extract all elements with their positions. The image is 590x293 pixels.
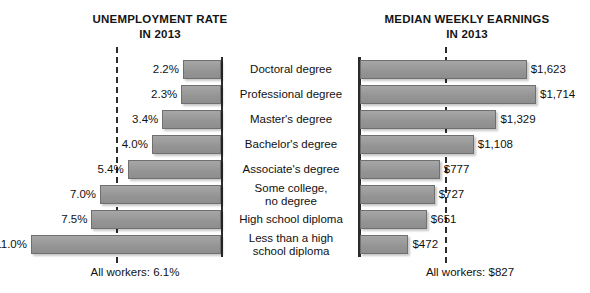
left-bar-value-less-than-high-school: 11.0% [0, 236, 27, 253]
right-bar-row: $651 [358, 207, 590, 232]
right-bar-row: $1,714 [358, 82, 590, 107]
category-label-masters: Master's degree [226, 113, 356, 126]
left-bar-row: 5.4% [8, 157, 223, 182]
left-bar-less-than-high-school [31, 235, 221, 254]
category-label-column: Doctoral degree Professional degree Mast… [226, 57, 356, 257]
left-bar-value-some-college: 7.0% [70, 186, 96, 203]
category-label-bachelors: Bachelor's degree [226, 138, 356, 151]
left-bar-some-college [100, 185, 221, 204]
right-bar-value-masters: $1,329 [500, 111, 535, 128]
right-bar-row: $472 [358, 232, 590, 257]
right-bar-high-school [360, 210, 427, 229]
left-bar-associates [128, 160, 221, 179]
category-label-line1: Associate's degree [243, 163, 340, 175]
right-bar-row: $1,623 [358, 57, 590, 82]
left-bar-professional [181, 85, 221, 104]
left-bar-value-high-school: 7.5% [61, 211, 87, 228]
category-label-high-school: High school diploma [226, 213, 356, 226]
right-bar-less-than-high-school [360, 235, 408, 254]
right-bar-bachelors [360, 135, 474, 154]
category-label-line2: school diploma [226, 245, 356, 258]
category-label-line1: Bachelor's degree [245, 138, 337, 150]
right-bar-value-doctoral: $1,623 [531, 61, 566, 78]
category-label-less-than-high-school: Less than a high school diploma [226, 232, 356, 257]
left-bar-value-masters: 3.4% [132, 111, 158, 128]
left-bar-row: 2.3% [8, 82, 223, 107]
right-bar-value-bachelors: $1,108 [478, 136, 513, 153]
left-bar-row: 7.5% [8, 207, 223, 232]
category-label-line1: High school diploma [239, 213, 343, 225]
category-label-line1: Doctoral degree [250, 63, 332, 75]
right-bar-value-associates: $777 [444, 161, 470, 178]
left-bar-row: 4.0% [8, 132, 223, 157]
left-bar-value-associates: 5.4% [98, 161, 124, 178]
right-bar-doctoral [360, 60, 527, 79]
left-bar-row: 11.0% [8, 232, 223, 257]
left-bar-doctoral [183, 60, 221, 79]
left-bar-value-doctoral: 2.2% [153, 61, 179, 78]
right-bar-associates [360, 160, 440, 179]
right-bar-row: $777 [358, 157, 590, 182]
right-bar-value-professional: $1,714 [540, 86, 575, 103]
dual-bar-chart-figure: UNEMPLOYMENT RATE IN 2013 MEDIAN WEEKLY … [0, 0, 590, 293]
left-chart-title-line1: UNEMPLOYMENT RATE [93, 13, 228, 25]
category-label-line1: Master's degree [250, 113, 332, 125]
right-bar-value-some-college: $727 [439, 186, 465, 203]
left-chart-title: UNEMPLOYMENT RATE IN 2013 [60, 12, 260, 42]
left-bar-bachelors [152, 135, 221, 154]
left-bar-row: 3.4% [8, 107, 223, 132]
right-chart-title-line1: MEDIAN WEEKLY EARNINGS [385, 13, 550, 25]
left-chart-plot-area: 2.2% 2.3% 3.4% 4.0% 5.4% 7.0% 7.5% 11.0 [8, 57, 223, 257]
right-bar-masters [360, 110, 496, 129]
left-bar-high-school [91, 210, 221, 229]
category-label-line1: Some college, [255, 182, 328, 194]
right-bar-value-less-than-high-school: $472 [412, 236, 438, 253]
left-chart-average-label: All workers: 6.1% [40, 266, 230, 278]
left-bar-value-professional: 2.3% [151, 86, 177, 103]
left-bar-row: 2.2% [8, 57, 223, 82]
category-label-professional: Professional degree [226, 88, 356, 101]
right-bar-some-college [360, 185, 435, 204]
category-label-line1: Less than a high [249, 232, 333, 244]
category-label-associates: Associate's degree [226, 163, 356, 176]
left-bar-masters [162, 110, 221, 129]
left-bar-value-bachelors: 4.0% [122, 136, 148, 153]
category-label-line1: Professional degree [240, 88, 342, 100]
category-label-line2: no degree [226, 195, 356, 208]
right-chart-title-line2: IN 2013 [352, 27, 582, 42]
right-chart-plot-area: $1,623 $1,714 $1,329 $1,108 $777 $727 $6… [358, 57, 590, 257]
right-bar-professional [360, 85, 536, 104]
right-bar-row: $1,329 [358, 107, 590, 132]
left-bar-row: 7.0% [8, 182, 223, 207]
right-chart-average-label: All workers: $827 [370, 266, 570, 278]
category-label-some-college: Some college, no degree [226, 182, 356, 207]
right-bar-row: $727 [358, 182, 590, 207]
category-label-doctoral: Doctoral degree [226, 63, 356, 76]
right-bar-value-high-school: $651 [431, 211, 457, 228]
right-bar-row: $1,108 [358, 132, 590, 157]
left-chart-title-line2: IN 2013 [60, 27, 260, 42]
right-chart-title: MEDIAN WEEKLY EARNINGS IN 2013 [352, 12, 582, 42]
